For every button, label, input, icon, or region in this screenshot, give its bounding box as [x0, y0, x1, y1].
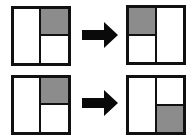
right-arrow-icon: [82, 90, 118, 116]
divider-horizontal: [129, 34, 155, 36]
shaded-cell-top-right: [41, 9, 68, 34]
divider-horizontal: [41, 103, 68, 105]
right-arrow-icon: [82, 22, 118, 48]
row1-after-panel: [126, 5, 186, 65]
row2-after-panel: [126, 75, 186, 135]
shaded-cell-top-left: [129, 8, 155, 34]
row2-before-panel: [11, 75, 71, 135]
row1-before-panel: [11, 6, 71, 66]
divider-vertical: [155, 8, 157, 62]
shaded-cell-bottom-right: [157, 106, 183, 132]
divider-horizontal: [41, 34, 68, 36]
shaded-cell-top-right: [41, 78, 68, 103]
